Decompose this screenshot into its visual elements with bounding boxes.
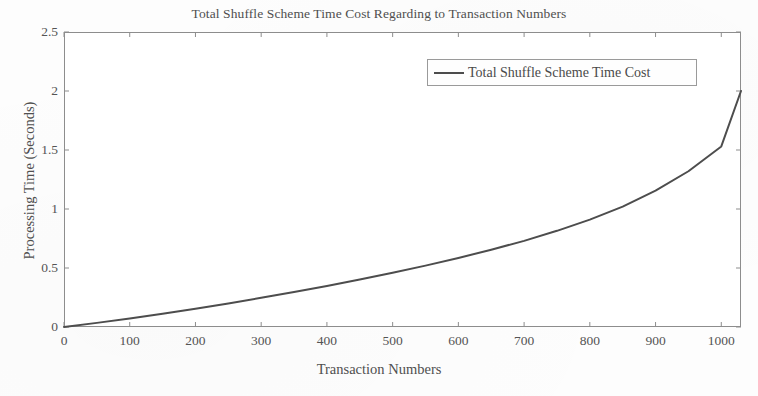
x-tick-label: 400	[317, 333, 337, 349]
x-tick-label: 700	[514, 333, 534, 349]
x-tick-label: 300	[251, 333, 271, 349]
x-tick-label: 1000	[708, 333, 735, 349]
y-tick-label: 0	[18, 319, 58, 335]
x-tick-label: 0	[61, 333, 68, 349]
chart-page: Total Shuffle Scheme Time Cost Regarding…	[0, 0, 758, 396]
chart-legend: Total Shuffle Scheme Time Cost	[427, 59, 697, 86]
legend-label-total-shuffle-scheme-time-cost: Total Shuffle Scheme Time Cost	[468, 65, 650, 81]
x-tick-label: 500	[383, 333, 403, 349]
x-tick-label: 900	[645, 333, 665, 349]
x-tick-label: 800	[580, 333, 600, 349]
y-axis-label: Processing Time (Seconds)	[21, 56, 38, 306]
legend-line-swatch	[434, 72, 464, 74]
x-tick-label: 200	[185, 333, 205, 349]
y-tick-label: 2.5	[18, 24, 58, 40]
x-tick-label: 100	[120, 333, 140, 349]
x-axis-label: Transaction Numbers	[0, 361, 758, 378]
x-tick-label: 600	[448, 333, 468, 349]
